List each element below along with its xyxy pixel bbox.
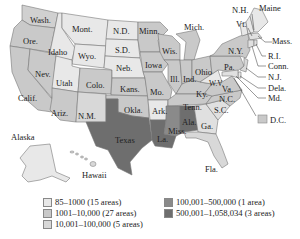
label-ore: Ore. [23, 36, 38, 46]
label-maine: Maine [259, 3, 281, 13]
label-ny: N.Y. [228, 46, 243, 56]
label-ky: Ky. [196, 89, 208, 99]
leader-line-dela [240, 76, 266, 88]
legend: 85–1000 (15 areas) 1001–10,000 (27 areas… [43, 197, 143, 230]
label-tenn: Tenn. [183, 102, 202, 112]
label-nd: N.D. [113, 26, 130, 36]
legend-item: 1001–10,000 (27 areas) [43, 208, 143, 219]
label-minn: Minn. [139, 26, 160, 36]
label-nev: Nev. [35, 69, 51, 79]
label-wyo: Wyo. [78, 51, 96, 61]
label-iowa: Iowa [145, 60, 162, 70]
label-dc: D.C. [270, 115, 286, 125]
label-miss: Miss. [168, 126, 187, 136]
legend-swatch [164, 198, 173, 207]
state-delaware[interactable] [238, 72, 241, 78]
legend-item: 500,001–1,058,034 (3 areas) [164, 208, 275, 219]
legend-right: 100,001–500,000 (1 area) 500,001–1,058,0… [164, 197, 275, 219]
state-connecticut[interactable] [248, 40, 254, 48]
label-ark: Ark. [152, 106, 167, 116]
legend-label: 1001–10,000 (27 areas) [55, 208, 136, 219]
label-ariz: Ariz. [51, 108, 68, 118]
legend-label: 85–1000 (15 areas) [55, 197, 121, 208]
label-md: Md. [268, 93, 282, 103]
label-wv: W.V. [209, 79, 224, 88]
legend-label: 100,001–500,000 (1 area) [176, 197, 265, 208]
label-alaska: Alaska [11, 132, 35, 142]
label-texas: Texas [115, 135, 135, 145]
state-hawaii[interactable] [70, 151, 96, 167]
label-la: La. [157, 134, 168, 144]
legend-swatch [43, 198, 52, 207]
label-utah: Utah [56, 78, 73, 88]
label-vt: Vt. [236, 19, 247, 29]
dc-swatch [258, 115, 267, 123]
label-kans: Kans. [120, 84, 140, 94]
state-florida[interactable] [184, 132, 228, 168]
label-ill: Ill. [170, 74, 180, 84]
label-mo: Mo. [150, 87, 164, 97]
state-alaska[interactable] [20, 144, 70, 182]
label-nc: N.C. [219, 94, 235, 104]
label-okla: Okla. [124, 105, 143, 115]
label-nh: N.H. [232, 5, 249, 15]
label-conn: Conn. [268, 61, 289, 71]
label-ri: R.I. [268, 51, 281, 61]
label-va: Va. [222, 84, 233, 94]
label-ala: Ala. [182, 117, 196, 127]
label-idaho: Idaho [48, 47, 67, 57]
legend-swatch [43, 209, 52, 218]
label-neb: Neb. [116, 63, 132, 73]
label-wis: Wis. [162, 46, 177, 56]
label-mont: Mont. [72, 24, 93, 34]
label-sd: S.D. [115, 45, 130, 55]
legend-item: 85–1000 (15 areas) [43, 197, 143, 208]
label-fla: Fla. [205, 164, 218, 174]
legend-item: 100,001–500,000 (1 area) [164, 197, 275, 208]
label-dela: Dela. [268, 83, 286, 93]
label-pa: Pa. [224, 62, 235, 72]
label-ohio: Ohio [195, 67, 212, 77]
label-mich: Mich. [184, 22, 204, 32]
label-nj: N.J. [268, 72, 282, 82]
label-mass: Mass. [272, 36, 292, 46]
legend-item: 10,001–100,000 (5 areas) [43, 219, 143, 230]
legend-swatch [164, 209, 173, 218]
leader-line-nj [246, 68, 266, 77]
label-hawaii: Hawaii [82, 170, 107, 180]
label-ga: Ga. [201, 121, 213, 131]
label-nm: N.M. [78, 111, 96, 121]
legend-label: 500,001–1,058,034 (3 areas) [176, 208, 275, 219]
label-sc: S.C. [214, 105, 229, 115]
leader-line-ri [256, 44, 266, 56]
state-massachusetts[interactable] [248, 33, 262, 40]
label-colo: Colo. [86, 80, 105, 90]
label-wash: Wash. [30, 15, 51, 25]
label-calif: Calif. [18, 93, 37, 103]
legend-swatch [43, 220, 52, 229]
legend-label: 10,001–100,000 (5 areas) [55, 219, 143, 230]
